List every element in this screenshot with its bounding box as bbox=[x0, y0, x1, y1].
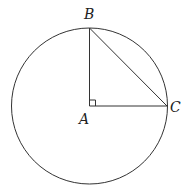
label-c: C bbox=[170, 99, 181, 115]
right-angle-marker bbox=[90, 100, 96, 106]
segment-bc bbox=[90, 28, 168, 106]
geometry-diagram: B A C bbox=[0, 0, 182, 194]
label-a: A bbox=[77, 111, 89, 127]
label-b: B bbox=[83, 6, 94, 22]
